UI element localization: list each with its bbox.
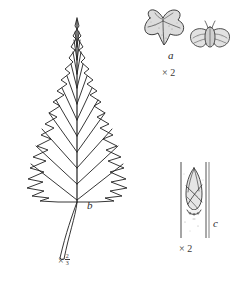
figure-label-nutlet: a <box>168 50 174 61</box>
scale-numerator-leaf: 2 <box>65 253 70 260</box>
botanical-plate: b ×23 <box>0 0 237 288</box>
nutlet-face-view-icon <box>188 20 232 56</box>
winged-nutlet-icon <box>136 4 192 52</box>
figure-scale-bud: × 2 <box>179 244 192 254</box>
scale-denominator-leaf: 3 <box>65 260 70 266</box>
figure-scale-leaf: ×23 <box>58 253 70 266</box>
nutlet-face-figure <box>188 20 232 56</box>
figure-label-bud: c <box>213 218 218 229</box>
figure-label-leaf: b <box>87 200 93 211</box>
scale-fraction-leaf: 23 <box>65 253 70 266</box>
leaf-blade-icon <box>4 12 150 262</box>
leaf-figure <box>4 12 150 262</box>
figure-scale-nutlet: × 2 <box>162 68 175 78</box>
multiplication-sign-leaf: × <box>58 255 65 266</box>
nutlet-figure <box>136 4 192 52</box>
